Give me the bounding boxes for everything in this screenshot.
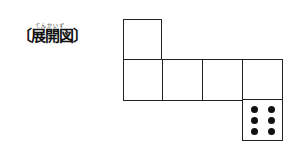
dot-icon: [251, 117, 258, 124]
net-square-row-1: [123, 59, 164, 101]
net-square-row-3: [202, 59, 244, 101]
dot-icon: [268, 117, 275, 124]
dot-icon: [268, 106, 275, 113]
net-square-row-4: [242, 59, 283, 101]
diagram-title: 〔展開図〕: [17, 28, 87, 44]
net-square-row-2: [162, 59, 204, 101]
dot-icon: [268, 128, 275, 135]
dot-icon: [251, 128, 258, 135]
net-square-top: [123, 19, 162, 61]
dot-icon: [251, 106, 258, 113]
net-square-bottom-six-dots: [242, 99, 283, 141]
